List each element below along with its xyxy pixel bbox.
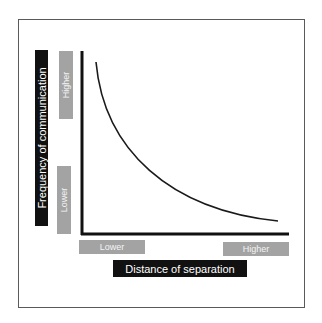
x-axis-title-text: Distance of separation (125, 263, 234, 275)
decay-curve (96, 62, 278, 221)
x-low-label-text: Lower (100, 242, 125, 252)
x-axis-title: Distance of separation (113, 260, 247, 277)
x-high-label-text: Higher (243, 244, 270, 254)
x-high-label: Higher (223, 242, 289, 256)
x-low-label: Lower (79, 240, 145, 254)
